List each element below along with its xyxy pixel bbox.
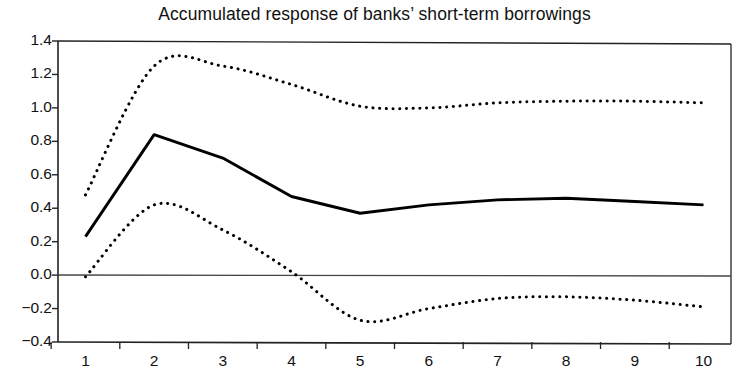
y-tick-label: 0.6 <box>0 165 52 183</box>
y-tick-label: 0.2 <box>0 232 52 250</box>
x-tick-label: 10 <box>684 352 724 370</box>
plot-area <box>0 0 749 387</box>
x-tick-label: 2 <box>134 352 174 370</box>
y-tick-label: −0.2 <box>0 299 52 317</box>
chart-figure: Accumulated response of banks’ short-ter… <box>0 0 749 387</box>
x-tick-label: 3 <box>203 352 243 370</box>
response-line <box>85 135 703 237</box>
y-axis-ticks <box>52 41 58 342</box>
confidence-band-line <box>85 56 703 195</box>
confidence-band-line <box>85 203 703 322</box>
y-tick-label: −0.4 <box>0 332 52 350</box>
data-series-group <box>85 56 703 322</box>
y-tick-label: 0.8 <box>0 131 52 149</box>
x-tick-label: 9 <box>615 352 655 370</box>
y-tick-label: 0.4 <box>0 198 52 216</box>
x-tick-label: 7 <box>478 352 518 370</box>
y-tick-label: 1.0 <box>0 98 52 116</box>
y-tick-label: 1.2 <box>0 64 52 82</box>
x-tick-label: 8 <box>546 352 586 370</box>
x-tick-label: 6 <box>409 352 449 370</box>
x-tick-label: 1 <box>65 352 105 370</box>
plot-top-border <box>58 41 731 44</box>
y-tick-label: 0.0 <box>0 265 52 283</box>
x-tick-label: 4 <box>271 352 311 370</box>
axes <box>58 41 731 344</box>
zero-reference-line <box>58 275 731 276</box>
x-tick-label: 5 <box>340 352 380 370</box>
y-tick-label: 1.4 <box>0 31 52 49</box>
